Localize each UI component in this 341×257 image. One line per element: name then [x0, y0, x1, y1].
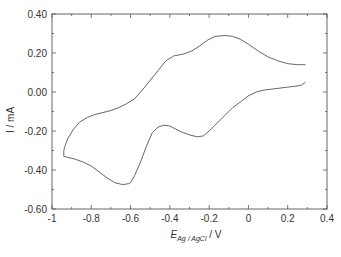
y-tick-label: 0.40	[28, 9, 48, 20]
x-axis-title-subscript: Ag / AgCl	[176, 235, 207, 243]
cv-curve	[64, 36, 306, 185]
plot-frame	[52, 14, 327, 209]
y-axis-title: I / mA	[5, 107, 16, 133]
y-tick-label: 0.20	[28, 48, 48, 59]
y-tick-label: 0.00	[28, 87, 48, 98]
cyclic-voltammogram-chart: -1-0.8-0.6-0.4-0.200.20.4 0.400.200.00-0…	[0, 0, 341, 257]
x-tick-label: -0.4	[161, 213, 179, 224]
x-axis-title-unit: / V	[206, 229, 221, 240]
x-tick-label: 0.4	[320, 213, 334, 224]
x-tick-label: -0.6	[122, 213, 140, 224]
x-tick-label: 0.2	[281, 213, 295, 224]
y-tick-label: -0.20	[24, 126, 47, 137]
x-tick-label: -0.8	[83, 213, 101, 224]
x-tick-label: 0	[246, 213, 252, 224]
x-tick-label: -1	[48, 213, 57, 224]
y-tick-label: -0.40	[24, 165, 47, 176]
x-tick-label: -0.2	[201, 213, 219, 224]
y-tick-label: -0.60	[24, 204, 47, 215]
x-axis-ticks: -1-0.8-0.6-0.4-0.200.20.4	[48, 14, 335, 224]
x-axis-title: EAg / AgCl / V	[171, 229, 222, 243]
y-axis-ticks: 0.400.200.00-0.20-0.40-0.60	[24, 9, 327, 215]
